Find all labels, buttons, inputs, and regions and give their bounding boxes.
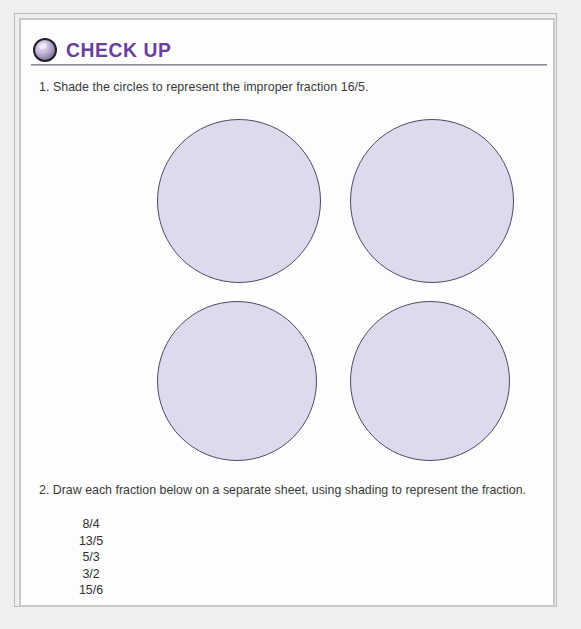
fraction-circle-3[interactable] xyxy=(157,301,317,461)
question-2-text: 2. Draw each fraction below on a separat… xyxy=(39,482,535,499)
circles-grid xyxy=(21,115,555,460)
page-title: CHECK UP xyxy=(66,38,171,62)
checkup-sphere-icon xyxy=(33,38,57,62)
fraction-circle-1[interactable] xyxy=(157,119,321,283)
question-2: 2. Draw each fraction below on a separat… xyxy=(39,482,535,499)
fraction-item: 8/4 xyxy=(51,516,131,533)
fraction-list: 8/4 13/5 5/3 3/2 15/6 xyxy=(51,516,131,599)
page-frame-inner: CHECK UP 1. Shade the circles to represe… xyxy=(19,18,555,607)
fraction-item: 13/5 xyxy=(51,533,131,550)
fraction-circle-2[interactable] xyxy=(350,119,514,283)
fraction-item: 5/3 xyxy=(51,549,131,566)
question-1-text: 1. Shade the circles to represent the im… xyxy=(39,79,539,95)
worksheet-sheet: CHECK UP 1. Shade the circles to represe… xyxy=(21,20,553,605)
fraction-circle-4[interactable] xyxy=(350,301,510,461)
fraction-item: 15/6 xyxy=(51,582,131,599)
header-divider xyxy=(31,64,547,66)
fraction-item: 3/2 xyxy=(51,566,131,583)
worksheet-page: CHECK UP 1. Shade the circles to represe… xyxy=(0,0,581,629)
